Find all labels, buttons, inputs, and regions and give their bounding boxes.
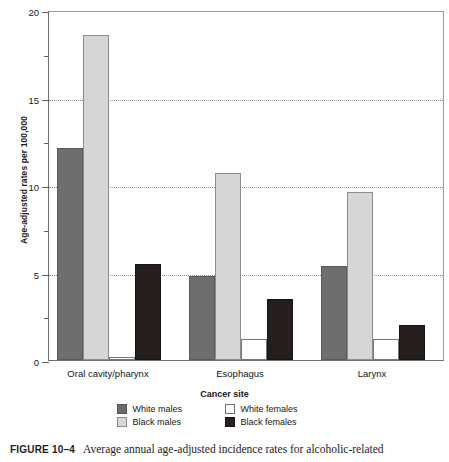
caption-text: Average annual age-adjusted incidence ra… <box>83 443 384 455</box>
bar-wm-2 <box>321 266 347 361</box>
y-tick-major <box>42 100 49 101</box>
bar-bm-0 <box>83 35 109 361</box>
bar-wf-1 <box>241 339 267 360</box>
x-axis-title: Cancer site <box>0 389 449 399</box>
y-tick-major <box>42 275 49 276</box>
y-tick-label: 20 <box>28 7 39 18</box>
legend-item-bf: Black females <box>225 417 333 427</box>
bar-bf-2 <box>399 325 425 360</box>
bar-bm-2 <box>347 192 373 360</box>
bar-bm-1 <box>215 173 241 360</box>
y-tick-label: 5 <box>34 269 39 280</box>
legend-label: White males <box>133 404 183 414</box>
y-tick-minor <box>44 231 49 232</box>
x-category-label: Oral cavity/pharynx <box>67 368 148 379</box>
figure-number: FIGURE 10–4 <box>10 444 75 455</box>
y-tick-minor <box>44 318 49 319</box>
y-tick-major <box>42 12 49 13</box>
y-tick-major <box>42 362 49 363</box>
bar-bf-1 <box>267 299 293 360</box>
legend-item-wf: White females <box>225 404 333 414</box>
legend-row: Black malesBlack females <box>117 417 333 427</box>
legend-label: Black females <box>241 417 297 427</box>
legend-item-bm: Black males <box>117 417 225 427</box>
y-tick-major <box>42 187 49 188</box>
bar-bf-0 <box>135 264 161 360</box>
y-tick-minor <box>44 143 49 144</box>
figure-caption: FIGURE 10–4Average annual age-adjusted i… <box>10 443 445 455</box>
legend-swatch-bf <box>225 417 235 427</box>
bar-wm-1 <box>189 276 215 360</box>
y-tick-minor <box>44 56 49 57</box>
legend-swatch-wm <box>117 404 127 414</box>
legend-row: White malesWhite females <box>117 404 333 414</box>
y-tick-label: 10 <box>28 182 39 193</box>
bar-wf-0 <box>109 357 135 360</box>
legend-item-wm: White males <box>117 404 225 414</box>
plot-area: 05101520 <box>48 11 444 361</box>
legend-swatch-wf <box>225 404 235 414</box>
bar-wf-2 <box>373 339 399 360</box>
legend-label: Black males <box>133 417 182 427</box>
legend: White malesWhite femalesBlack malesBlack… <box>0 404 449 427</box>
legend-swatch-bm <box>117 417 127 427</box>
legend-label: White females <box>241 404 298 414</box>
x-category-label: Larynx <box>358 368 387 379</box>
y-tick-label: 0 <box>34 357 39 368</box>
x-category-label: Esophagus <box>216 368 264 379</box>
y-tick-label: 15 <box>28 94 39 105</box>
figure-chart: Age-adjusted rates per 100,000 05101520 … <box>0 0 449 462</box>
bar-wm-0 <box>57 148 83 360</box>
